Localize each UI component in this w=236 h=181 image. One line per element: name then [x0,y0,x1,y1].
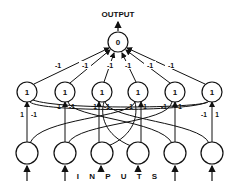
hidden-node: 1 [55,82,75,102]
hidden-node: 1 [17,82,37,102]
svg-text:1: 1 [25,88,30,97]
svg-text:1: 1 [100,88,105,97]
svg-text:1: 1 [136,88,141,97]
svg-text:1: 1 [215,111,219,118]
hidden-node: 1 [92,82,112,102]
input-node [127,142,149,164]
svg-text:-1: -1 [127,103,133,110]
svg-text:1: 1 [143,103,147,110]
svg-text:-1: -1 [31,111,37,118]
svg-text:-1: -1 [69,103,75,110]
input-node [16,142,38,164]
svg-text:1: 1 [20,111,24,118]
svg-text:1: 1 [210,88,215,97]
input-node [54,142,76,164]
output-title: OUTPUT [102,10,135,19]
svg-text:-1: -1 [55,62,61,69]
svg-text:-1: -1 [104,103,110,110]
hidden-node: 1 [202,82,222,102]
svg-text:1: 1 [173,88,178,97]
output-node: 0 [108,32,128,52]
svg-text:1: 1 [93,103,97,110]
svg-text:-1: -1 [168,62,174,69]
input-layer [16,142,223,164]
svg-text:1: 1 [63,88,68,97]
hidden-node: 1 [165,82,185,102]
input-node [164,142,186,164]
svg-text:1: 1 [57,103,61,110]
input-node [201,142,223,164]
hidden-layer: 1 1 1 1 1 1 [17,82,222,102]
svg-text:-1: -1 [161,103,167,110]
svg-text:-1: -1 [201,111,207,118]
svg-text:-1: -1 [107,62,113,69]
direct-edges [27,102,212,142]
neural-network-diagram: OUTPUT 0 -1 -1 -1 -1 -1 -1 [0,0,236,181]
input-node [91,142,113,164]
svg-text:0: 0 [116,38,121,47]
svg-text:-1: -1 [147,62,153,69]
svg-text:-1: -1 [125,62,131,69]
hidden-node: 1 [128,82,148,102]
svg-text:-1: -1 [82,62,88,69]
network-svg: OUTPUT 0 -1 -1 -1 -1 -1 -1 [0,0,236,181]
inputs-label: I N P U T S [77,172,161,181]
svg-text:1: 1 [178,103,182,110]
